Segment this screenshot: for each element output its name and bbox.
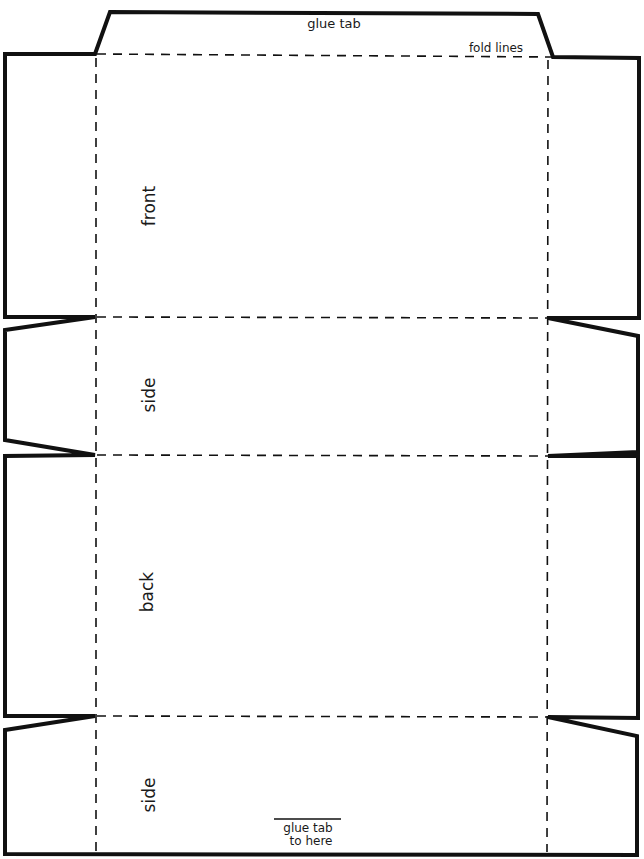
box-template-diagram: glue tab fold lines front side back side… bbox=[0, 0, 644, 859]
cut-outline bbox=[5, 12, 639, 855]
fold-line-back-side bbox=[97, 716, 548, 717]
panel-label-side-1: side bbox=[139, 378, 159, 413]
panel-label-side-2: side bbox=[139, 778, 159, 813]
glue-target-line1: glue tab bbox=[283, 821, 332, 835]
glue-tab-label: glue tab bbox=[307, 16, 361, 31]
panel-label-back: back bbox=[137, 572, 157, 613]
fold-lines-label: fold lines bbox=[469, 41, 523, 55]
fold-line-side-back bbox=[97, 455, 548, 456]
panel-label-front: front bbox=[139, 185, 159, 226]
glue-target-line2: to here bbox=[290, 834, 333, 848]
fold-line-front-side bbox=[97, 317, 548, 318]
